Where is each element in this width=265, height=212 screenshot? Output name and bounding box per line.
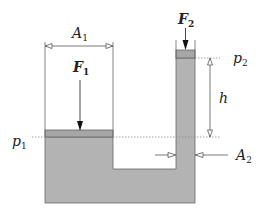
label-a2-main: A	[236, 147, 246, 163]
h-arrow-top-icon	[208, 58, 213, 65]
h-arrow-bottom-icon	[208, 130, 213, 137]
label-a1-sub: 1	[82, 33, 88, 43]
label-f2-sub: 2	[188, 19, 194, 29]
left-piston	[45, 130, 113, 137]
label-h: h	[219, 91, 228, 105]
a1-arrow-right-icon	[106, 44, 113, 49]
f1-arrow-head-icon	[77, 121, 83, 131]
label-f2-main: F	[178, 11, 188, 27]
label-a2: A2	[236, 148, 252, 165]
f2-arrow-head-icon	[183, 40, 189, 50]
diagram-graphic	[0, 0, 265, 212]
label-p2-sub: 2	[242, 58, 248, 68]
a2-arrow-right-icon	[195, 153, 203, 158]
label-p1: p1	[12, 134, 27, 151]
label-f1-main: F	[73, 59, 83, 75]
label-f1-sub: 1	[83, 67, 89, 77]
label-a2-sub: 2	[246, 155, 252, 165]
a2-arrow-left-icon	[168, 153, 176, 158]
label-a1: A1	[72, 26, 88, 43]
label-f2: F2	[178, 12, 194, 29]
label-p2-main: p	[233, 50, 242, 66]
hydraulic-diagram: A1 F1 F2 p2 h p1 A2	[0, 0, 265, 212]
label-p1-main: p	[12, 133, 21, 149]
label-p2: p2	[233, 51, 248, 68]
label-a1-main: A	[72, 25, 82, 41]
right-piston	[176, 50, 195, 58]
label-f1: F1	[73, 60, 89, 77]
a1-arrow-left-icon	[45, 44, 52, 49]
label-p1-sub: 1	[21, 141, 27, 151]
label-h-main: h	[219, 90, 228, 106]
